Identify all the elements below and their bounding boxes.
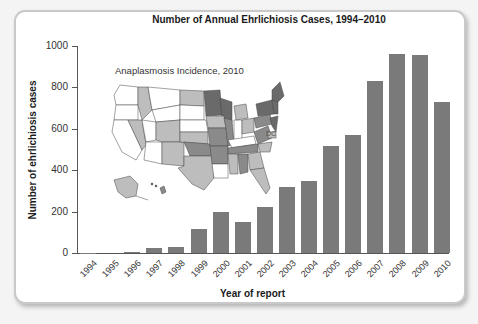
bar-2004 xyxy=(301,181,317,253)
y-tick-label: 600 xyxy=(30,124,68,134)
y-tick-label: 400 xyxy=(30,165,68,175)
y-tick xyxy=(72,46,77,47)
bar-2001 xyxy=(235,222,251,253)
dc-label: DC xyxy=(266,130,276,137)
y-tick xyxy=(72,129,77,130)
y-tick xyxy=(72,253,77,254)
bar-2010 xyxy=(434,102,450,253)
bar-2007 xyxy=(367,81,383,253)
y-tick-label: 0 xyxy=(30,248,68,258)
x-axis-label: Year of report xyxy=(220,288,285,299)
bar-2006 xyxy=(345,135,361,253)
y-tick-label: 800 xyxy=(30,82,68,92)
y-axis-label: Number of ehrlichiosis cases xyxy=(27,81,38,220)
y-tick xyxy=(72,212,77,213)
bar-2002 xyxy=(257,207,273,253)
chart-title: Number of Annual Ehrlichiosis Cases, 199… xyxy=(0,14,478,25)
bar-2000 xyxy=(213,212,229,253)
bar-1999 xyxy=(191,229,207,253)
bar-1998 xyxy=(168,247,184,253)
bar-2008 xyxy=(389,54,405,253)
bar-1996 xyxy=(124,252,140,253)
us-choropleth-map xyxy=(108,60,288,210)
y-tick-label: 1000 xyxy=(30,41,68,51)
bar-2005 xyxy=(323,146,339,253)
x-axis-line xyxy=(77,253,449,254)
y-tick xyxy=(72,87,77,88)
y-axis-line xyxy=(77,46,78,253)
y-tick xyxy=(72,170,77,171)
bar-2009 xyxy=(412,55,428,253)
y-tick-label: 200 xyxy=(30,207,68,217)
bar-1997 xyxy=(146,248,162,253)
